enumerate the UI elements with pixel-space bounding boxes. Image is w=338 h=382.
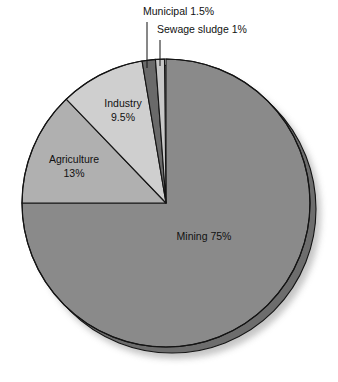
label-agriculture-value: 13% xyxy=(63,167,84,179)
label-agriculture-name: Agriculture xyxy=(49,153,99,165)
label-industry-value: 9.5% xyxy=(111,111,135,123)
label-sewage-sludge: Sewage sludge 1% xyxy=(157,23,247,35)
label-industry-name: Industry xyxy=(104,97,142,109)
pie-chart-svg: Municipal 1.5% Sewage sludge 1% Industry… xyxy=(0,0,338,382)
pie-slices xyxy=(22,59,310,347)
label-municipal: Municipal 1.5% xyxy=(143,5,214,17)
pie-chart-figure: Municipal 1.5% Sewage sludge 1% Industry… xyxy=(0,0,338,382)
label-mining: Mining 75% xyxy=(177,230,232,242)
